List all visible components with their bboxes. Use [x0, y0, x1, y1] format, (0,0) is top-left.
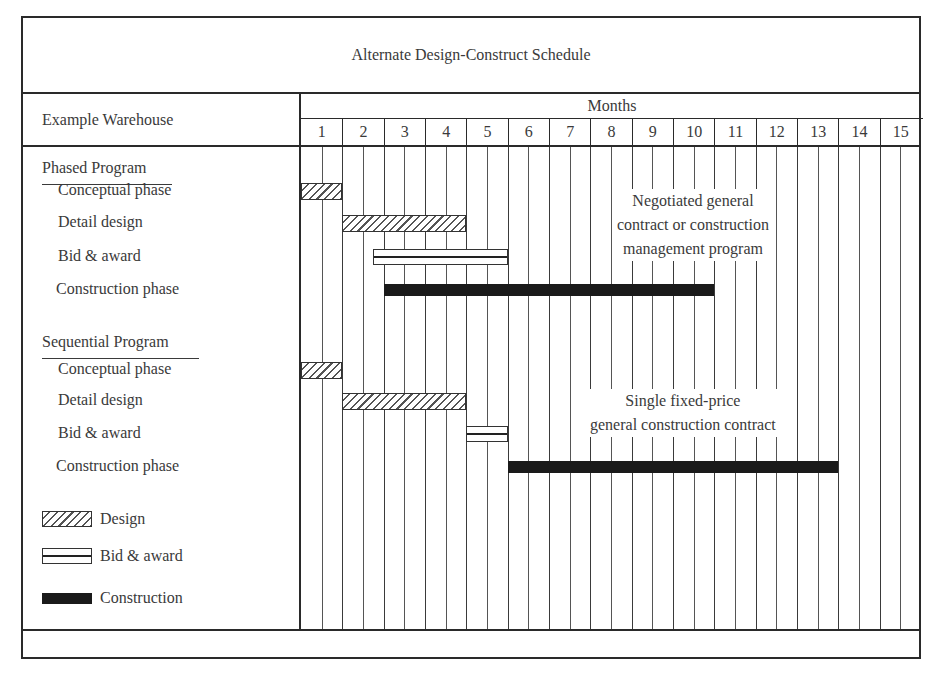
- month-tick-11: 11: [714, 119, 755, 145]
- task-label: Construction phase: [56, 457, 179, 475]
- month-tick-2: 2: [342, 119, 383, 145]
- chart-title-row: Alternate Design-Construct Schedule: [23, 18, 919, 94]
- month-tick-6: 6: [508, 119, 549, 145]
- task-label-column: Phased ProgramConceptual phaseDetail des…: [23, 147, 300, 629]
- gantt-grid: Negotiated generalcontract or constructi…: [301, 147, 921, 629]
- footer-divider: [23, 629, 919, 631]
- month-gridline: [797, 147, 798, 629]
- half-month-gridline: [818, 147, 819, 629]
- month-tick-5: 5: [466, 119, 507, 145]
- task-label: Construction phase: [56, 280, 179, 298]
- month-tick-14: 14: [838, 119, 879, 145]
- group-label-underline: [42, 358, 199, 359]
- legend-label: Design: [100, 510, 145, 528]
- bid-bar: [466, 426, 507, 442]
- half-month-gridline: [776, 147, 777, 629]
- half-month-gridline: [611, 147, 612, 629]
- half-month-gridline: [487, 147, 488, 629]
- legend-item-construction: Construction: [42, 589, 183, 607]
- legend-label: Bid & award: [100, 547, 183, 565]
- half-month-gridline: [322, 147, 323, 629]
- design-bar: [342, 215, 466, 232]
- legend-swatch-icon: [42, 593, 92, 604]
- month-gridline: [508, 147, 509, 629]
- design-bar: [301, 362, 342, 379]
- chart-title: Alternate Design-Construct Schedule: [351, 46, 590, 64]
- month-tick-8: 8: [590, 119, 631, 145]
- construction-bar: [508, 461, 839, 473]
- program-annotation: Single fixed-pricegeneral construction c…: [586, 389, 780, 437]
- half-month-gridline: [859, 147, 860, 629]
- month-tick-3: 3: [384, 119, 425, 145]
- task-label: Conceptual phase: [58, 360, 171, 378]
- legend-item-bid-award: Bid & award: [42, 547, 183, 565]
- month-tick-row: 123456789101112131415: [301, 119, 921, 147]
- group-label: Sequential Program: [42, 333, 169, 351]
- annotation-line: Negotiated general: [617, 189, 769, 213]
- design-bar: [301, 183, 342, 200]
- row-header-label: Example Warehouse: [42, 111, 173, 129]
- months-label-text: Months: [588, 97, 637, 115]
- group-label: Phased Program: [42, 159, 146, 177]
- annotation-line: management program: [617, 237, 769, 261]
- legend-item-design: Design: [42, 510, 145, 528]
- month-tick-12: 12: [756, 119, 797, 145]
- month-gridline: [838, 147, 839, 629]
- construction-bar: [384, 284, 715, 296]
- bid-bar: [373, 249, 507, 265]
- row-header: Example Warehouse: [23, 94, 300, 147]
- task-label: Bid & award: [58, 247, 141, 265]
- month-tick-4: 4: [425, 119, 466, 145]
- month-tick-10: 10: [673, 119, 714, 145]
- program-annotation: Negotiated generalcontract or constructi…: [613, 189, 773, 261]
- design-bar: [342, 393, 466, 410]
- task-label: Conceptual phase: [58, 181, 171, 199]
- month-gridline: [590, 147, 591, 629]
- schedule-frame: Alternate Design-Construct Schedule Exam…: [21, 16, 921, 659]
- half-month-gridline: [528, 147, 529, 629]
- half-month-gridline: [570, 147, 571, 629]
- task-label: Bid & award: [58, 424, 141, 442]
- month-gridline: [466, 147, 467, 629]
- annotation-line: general construction contract: [590, 413, 776, 437]
- months-axis-label: Months: [301, 94, 923, 119]
- annotation-line: Single fixed-price: [590, 389, 776, 413]
- month-tick-13: 13: [797, 119, 838, 145]
- month-tick-9: 9: [632, 119, 673, 145]
- task-label: Detail design: [58, 213, 143, 231]
- legend-label: Construction: [100, 589, 183, 607]
- month-tick-15: 15: [880, 119, 921, 145]
- month-gridline: [880, 147, 881, 629]
- half-month-gridline: [900, 147, 901, 629]
- legend-swatch-icon: [42, 511, 92, 527]
- month-tick-7: 7: [549, 119, 590, 145]
- month-tick-1: 1: [301, 119, 342, 145]
- legend-swatch-icon: [42, 548, 92, 564]
- task-label: Detail design: [58, 391, 143, 409]
- month-gridline: [549, 147, 550, 629]
- annotation-line: contract or construction: [617, 213, 769, 237]
